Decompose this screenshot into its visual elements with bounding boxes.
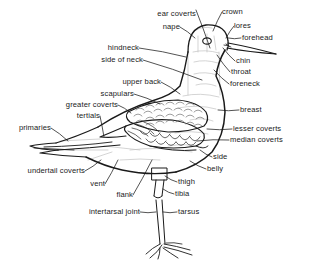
label-upper-back: upper back bbox=[122, 77, 161, 86]
label-forehead: forehead bbox=[242, 33, 273, 42]
leader-line-flank bbox=[133, 160, 152, 195]
label-crown: crown bbox=[222, 7, 243, 16]
label-intertarsal-joint: intertarsal joint bbox=[89, 207, 140, 216]
covert-feather-texture bbox=[140, 131, 200, 146]
label-undertail-coverts: undertail coverts bbox=[28, 166, 85, 175]
leader-line-hindneck bbox=[139, 48, 186, 57]
label-lesser-coverts: lesser coverts bbox=[233, 124, 281, 133]
leader-line-primaries bbox=[51, 128, 68, 141]
leader-line-lores bbox=[226, 26, 234, 38]
label-nape: nape bbox=[163, 22, 180, 31]
leader-line-tarsus bbox=[163, 212, 177, 213]
interior-division-lines bbox=[58, 27, 220, 160]
leader-line-undertail-coverts bbox=[85, 160, 101, 171]
label-thigh: thigh bbox=[178, 177, 195, 186]
label-belly: belly bbox=[207, 164, 223, 173]
label-tertials: tertials bbox=[77, 111, 100, 120]
label-tarsus: tarsus bbox=[178, 207, 199, 216]
label-lores: lores bbox=[234, 21, 251, 30]
leader-line-breast bbox=[218, 110, 239, 111]
label-hindneck: hindneck bbox=[108, 43, 139, 52]
leader-line-tibia bbox=[163, 189, 174, 194]
label-side-of-neck: side of neck bbox=[101, 55, 143, 64]
label-scapulars: scapulars bbox=[101, 89, 134, 98]
label-side: side bbox=[213, 152, 227, 161]
leader-line-vent bbox=[105, 160, 118, 184]
label-tibia: tibia bbox=[175, 189, 189, 198]
bird-topography-diagram: ear covertscrownnapeloresforeheadhindnec… bbox=[0, 0, 314, 268]
leader-line-intertarsal-joint bbox=[140, 212, 156, 213]
leader-line-lesser-coverts bbox=[207, 129, 232, 130]
leader-line-chin bbox=[223, 48, 235, 61]
label-foreneck: foreneck bbox=[230, 79, 260, 88]
label-flank: flank bbox=[116, 190, 133, 199]
label-primaries: primaries bbox=[19, 123, 51, 132]
leader-line-tertials bbox=[100, 116, 104, 137]
leader-line-median-coverts bbox=[197, 140, 229, 141]
label-throat: throat bbox=[231, 67, 251, 76]
label-chin: chin bbox=[236, 56, 250, 65]
label-greater-coverts: greater coverts bbox=[66, 100, 118, 109]
label-vent: vent bbox=[90, 179, 105, 188]
label-breast: breast bbox=[240, 105, 262, 114]
leader-line-forehead bbox=[228, 38, 241, 39]
label-ear-coverts: ear coverts bbox=[157, 9, 196, 18]
label-median-coverts: median coverts bbox=[230, 135, 283, 144]
